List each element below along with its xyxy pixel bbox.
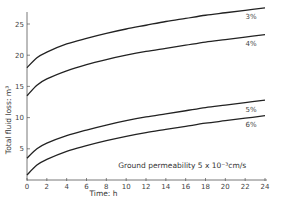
series-label: 6% xyxy=(246,121,257,129)
series-label: 3% xyxy=(246,13,257,21)
permeability-annotation: Ground permeability 5 x 10⁻³cm/s xyxy=(118,161,246,170)
x-tick-label: 0 xyxy=(25,183,29,191)
curve-4pct xyxy=(27,35,265,96)
curve-3pct xyxy=(27,8,265,68)
x-tick-label: 22 xyxy=(241,183,250,191)
x-tick-label: 4 xyxy=(64,183,69,191)
y-tick-label: 10 xyxy=(15,114,24,122)
x-axis-label: Time: h xyxy=(88,189,117,198)
y-tick-label: 5 xyxy=(20,145,24,153)
x-tick-label: 18 xyxy=(201,183,210,191)
y-tick-label: 15 xyxy=(15,83,24,91)
series-label: 4% xyxy=(246,40,257,48)
series-label: 5% xyxy=(246,106,257,114)
x-tick-label: 14 xyxy=(161,183,170,191)
y-axis-label: Total fluid loss: m³ xyxy=(4,86,13,155)
y-tick-label: 25 xyxy=(15,21,24,29)
x-tick-label: 10 xyxy=(122,183,131,191)
curve-5pct xyxy=(27,100,265,158)
x-tick-label: 2 xyxy=(45,183,49,191)
x-tick-label: 20 xyxy=(221,183,230,191)
x-tick-label: 16 xyxy=(181,183,190,191)
curves xyxy=(27,8,265,175)
y-tick-label: 20 xyxy=(15,52,24,60)
x-tick-label: 24 xyxy=(261,183,270,191)
fluid-loss-chart: 024681012141618202224510152025 Time: hTo… xyxy=(0,0,283,200)
x-tick-label: 12 xyxy=(142,183,151,191)
